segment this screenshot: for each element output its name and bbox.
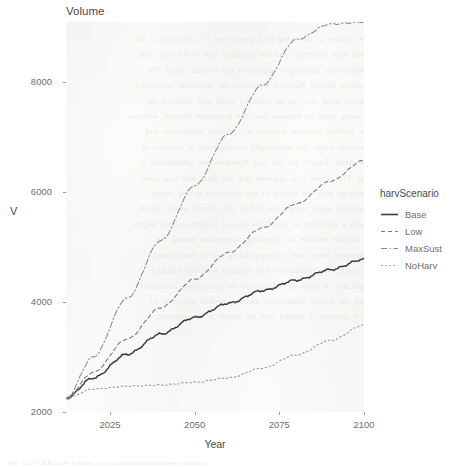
legend-key-noharv-icon [380, 260, 399, 271]
plot-title: Volume [66, 5, 104, 17]
figure-container: Volume the volume of the stand in a give… [0, 0, 462, 467]
series-line-low [66, 160, 364, 399]
x-tick-label: 2025 [90, 419, 130, 430]
legend-item-low[interactable]: Low [380, 223, 460, 240]
legend-title: harvScenario [380, 188, 460, 199]
x-tick-mark [110, 412, 111, 415]
figure-caption-fragment: Fig. 11.2 FDFB forest volume projections… [8, 459, 308, 467]
y-tick-mark [63, 192, 66, 193]
x-tick-label: 2050 [175, 419, 215, 430]
y-tick-mark [63, 302, 66, 303]
legend-item-maxsust[interactable]: MaxSust [380, 240, 460, 257]
y-tick-label: 8000 [18, 76, 52, 87]
legend-item-noharv[interactable]: NoHarv [380, 257, 460, 274]
legend: harvScenario BaseLowMaxSustNoHarv [380, 188, 460, 274]
y-axis-title: V [10, 205, 17, 217]
y-tick-label: 6000 [18, 186, 52, 197]
y-tick-label: 4000 [18, 296, 52, 307]
legend-label: Base [405, 209, 427, 220]
legend-item-base[interactable]: Base [380, 206, 460, 223]
legend-key-base-icon [380, 209, 399, 220]
x-tick-mark [364, 412, 365, 415]
x-tick-label: 2075 [259, 419, 299, 430]
y-tick-label: 2000 [18, 406, 52, 417]
legend-items: BaseLowMaxSustNoHarv [380, 206, 460, 274]
y-tick-mark [63, 412, 66, 413]
legend-label: NoHarv [405, 260, 437, 271]
series-line-maxsust [66, 22, 364, 398]
series-line-base [66, 258, 364, 399]
legend-label: Low [405, 226, 422, 237]
legend-key-low-icon [380, 226, 399, 237]
x-tick-label: 2100 [344, 419, 384, 430]
x-tick-mark [195, 412, 196, 415]
y-tick-mark [63, 82, 66, 83]
series-line-noharv [66, 325, 364, 399]
x-tick-mark [279, 412, 280, 415]
x-axis-title: Year [66, 438, 364, 450]
legend-key-maxsust-icon [380, 243, 399, 254]
plot-panel: the volume of the stand in a given year … [66, 22, 364, 412]
legend-label: MaxSust [405, 243, 442, 254]
chart-curves [66, 22, 364, 412]
